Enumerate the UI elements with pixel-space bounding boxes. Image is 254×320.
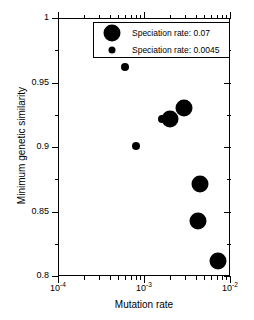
data-point bbox=[175, 100, 192, 117]
x-axis-tick-major bbox=[58, 276, 59, 283]
data-point bbox=[132, 142, 140, 150]
y-axis-tick-minor bbox=[55, 179, 59, 180]
x-axis-tick-minor-top bbox=[99, 15, 100, 19]
legend-item: Speciation rate: 0.0045 bbox=[94, 41, 229, 58]
x-axis-tick-major bbox=[144, 276, 145, 283]
y-axis-tick-minor bbox=[55, 115, 59, 116]
x-axis-tick-major bbox=[230, 276, 231, 283]
y-axis-tick-minor-right bbox=[227, 244, 231, 245]
x-axis-tick-minor bbox=[185, 276, 186, 280]
y-axis-tick-minor bbox=[55, 50, 59, 51]
x-axis-tick-minor bbox=[84, 276, 85, 280]
x-axis-tick-minor-top bbox=[226, 15, 227, 19]
y-axis-tick-right bbox=[224, 83, 231, 84]
x-axis-tick-minor bbox=[196, 276, 197, 280]
x-axis-tick-minor-top bbox=[118, 15, 119, 19]
x-axis-tick-minor-top bbox=[84, 15, 85, 19]
y-axis-tick-minor-right bbox=[227, 179, 231, 180]
y-axis-tick-major bbox=[52, 83, 59, 84]
frame-edge-mask bbox=[231, 200, 237, 250]
x-axis-tick-minor-top bbox=[136, 15, 137, 19]
x-axis-tick-minor bbox=[125, 276, 126, 280]
y-axis-tick-major bbox=[52, 147, 59, 148]
x-axis-tick-minor bbox=[136, 276, 137, 280]
x-axis-tick-minor bbox=[226, 276, 227, 280]
data-point bbox=[158, 115, 166, 123]
x-axis-tick-minor bbox=[204, 276, 205, 280]
legend: Speciation rate: 0.07Speciation rate: 0.… bbox=[93, 22, 230, 58]
legend-marker-icon bbox=[104, 25, 121, 42]
data-point bbox=[209, 252, 226, 269]
x-axis-tick-major-top bbox=[230, 12, 231, 19]
x-axis-tick-minor-top bbox=[125, 15, 126, 19]
x-axis-tick-minor bbox=[217, 276, 218, 280]
legend-item-label: Speciation rate: 0.07 bbox=[132, 28, 210, 38]
y-axis-tick-minor bbox=[55, 244, 59, 245]
x-axis-tick-minor bbox=[222, 276, 223, 280]
x-axis-tick-minor-top bbox=[204, 15, 205, 19]
x-axis-tick-minor bbox=[170, 276, 171, 280]
data-point bbox=[190, 212, 207, 229]
x-axis-tick-minor bbox=[131, 276, 132, 280]
x-axis-tick-minor-top bbox=[140, 15, 141, 19]
x-axis-tick-minor bbox=[110, 276, 111, 280]
y-axis-tick-major bbox=[52, 212, 59, 213]
x-axis-tick-minor bbox=[211, 276, 212, 280]
x-axis-tick-minor-top bbox=[131, 15, 132, 19]
legend-marker-icon bbox=[109, 47, 116, 54]
x-axis-tick-minor-top bbox=[110, 15, 111, 19]
x-axis-tick-minor-top bbox=[196, 15, 197, 19]
data-point bbox=[121, 63, 129, 71]
data-point bbox=[192, 176, 209, 193]
x-axis-tick-minor-top bbox=[217, 15, 218, 19]
x-axis-tick-major-top bbox=[144, 12, 145, 19]
x-axis-tick-minor-top bbox=[170, 15, 171, 19]
x-axis-tick-label: 10-2 bbox=[210, 283, 250, 293]
x-axis-tick-minor bbox=[99, 276, 100, 280]
x-axis-tick-label: 10-3 bbox=[124, 283, 164, 293]
frame-edge-mask bbox=[231, 40, 237, 160]
x-axis-tick-minor-top bbox=[222, 15, 223, 19]
y-axis-title: Minimum genetic similarity bbox=[16, 17, 27, 275]
y-axis-tick-minor-right bbox=[227, 115, 231, 116]
x-axis-tick-minor bbox=[118, 276, 119, 280]
x-axis-tick-major-top bbox=[58, 12, 59, 19]
x-axis-tick-minor-top bbox=[211, 15, 212, 19]
x-axis-title: Mutation rate bbox=[58, 299, 230, 310]
legend-item-label: Speciation rate: 0.0045 bbox=[132, 45, 219, 55]
x-axis-tick-minor bbox=[140, 276, 141, 280]
legend-item: Speciation rate: 0.07 bbox=[94, 24, 229, 41]
y-axis-tick-right bbox=[224, 212, 231, 213]
x-axis-tick-label: 10-4 bbox=[38, 283, 78, 293]
x-axis-tick-minor-top bbox=[185, 15, 186, 19]
y-axis-tick-right bbox=[224, 147, 231, 148]
scatter-plot-figure: 0.80.850.90.95110-410-310-2 Mutation rat… bbox=[0, 0, 254, 320]
